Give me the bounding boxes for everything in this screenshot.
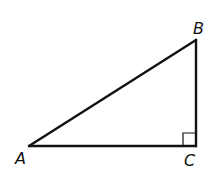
vertex-label-b: B bbox=[193, 19, 204, 38]
right-triangle-diagram: A B C bbox=[0, 0, 213, 175]
vertex-label-a: A bbox=[14, 149, 26, 168]
right-angle-marker-icon bbox=[183, 133, 196, 146]
segment-ab bbox=[29, 40, 196, 146]
vertex-label-c: C bbox=[184, 151, 196, 170]
